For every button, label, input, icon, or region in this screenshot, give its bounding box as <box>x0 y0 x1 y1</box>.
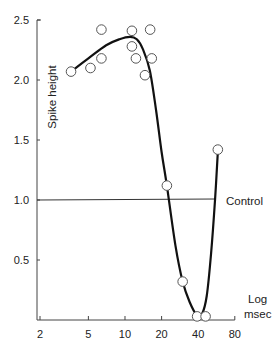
x-tick-label: 5 <box>85 328 91 340</box>
x-tick-label: 20 <box>155 328 167 340</box>
data-point-marker <box>140 70 150 80</box>
data-point-marker <box>162 181 172 191</box>
y-tick-label: 1.0 <box>14 194 29 206</box>
x-axis-title-line1: Log <box>248 293 267 305</box>
spike-height-chart: 0.51.01.52.02.52510204080 Spike height C… <box>0 0 279 350</box>
control-reference-line <box>37 199 215 200</box>
y-tick-label: 0.5 <box>14 254 29 266</box>
data-point-marker <box>145 25 155 35</box>
data-point-marker <box>178 277 188 287</box>
y-tick-label: 1.5 <box>14 134 29 146</box>
data-point-marker <box>66 67 76 77</box>
x-axis-title-line2: msec <box>244 308 272 320</box>
control-line <box>37 199 215 200</box>
data-point-marker <box>147 54 157 64</box>
data-markers <box>66 25 222 321</box>
x-tick-label: 10 <box>119 328 131 340</box>
control-label: Control <box>226 195 263 207</box>
data-point-marker <box>127 42 137 52</box>
chart-canvas: 0.51.01.52.02.52510204080 Spike height C… <box>0 0 279 350</box>
x-tick-label: 80 <box>229 328 241 340</box>
data-point-marker <box>86 63 96 73</box>
x-tick-label: 40 <box>192 328 204 340</box>
data-point-marker <box>131 54 141 64</box>
data-point-marker <box>97 25 107 35</box>
y-axis-title: Spike height <box>46 65 58 129</box>
y-tick-label: 2.0 <box>14 74 29 86</box>
data-point-marker <box>127 26 137 36</box>
x-tick-label: 2 <box>37 328 43 340</box>
data-point-marker <box>201 312 211 322</box>
data-point-marker <box>97 54 107 64</box>
y-tick-label: 2.5 <box>14 14 29 26</box>
data-point-marker <box>213 145 223 155</box>
